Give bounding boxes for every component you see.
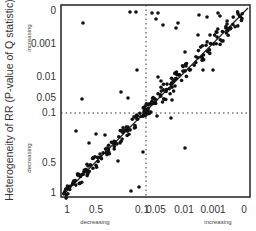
svg-text:0.05: 0.05 xyxy=(37,92,57,103)
y-decreasing-label: decreasing xyxy=(26,143,32,172)
x-increasing-label: increasing xyxy=(204,219,231,225)
svg-text:1: 1 xyxy=(50,187,56,198)
svg-text:0.5: 0.5 xyxy=(42,157,56,168)
scatter-chart: 0 0.001 0.01 0.05 0.1 0.5 1 1 0.5 0.1 0.… xyxy=(0,0,256,231)
svg-text:1: 1 xyxy=(64,204,70,215)
svg-text:0.01: 0.01 xyxy=(174,204,194,215)
svg-text:0: 0 xyxy=(50,5,56,16)
y-increasing-label: increasing xyxy=(26,24,32,51)
svg-text:0.5: 0.5 xyxy=(89,204,103,215)
y-axis-title: Heterogeneity of RR (P-value of Q statis… xyxy=(3,0,15,201)
svg-text:0.001: 0.001 xyxy=(200,204,225,215)
data-points xyxy=(62,10,244,200)
svg-text:0.05: 0.05 xyxy=(146,204,166,215)
svg-text:0: 0 xyxy=(241,204,247,215)
svg-text:0.01: 0.01 xyxy=(37,71,57,82)
x-axis: 1 0.5 0.1 0.05 0.01 0.001 0 xyxy=(64,204,247,215)
x-decreasing-label: decreasing xyxy=(80,219,109,225)
svg-text:0.001: 0.001 xyxy=(31,38,56,49)
svg-text:0.1: 0.1 xyxy=(42,107,56,118)
y-axis: 0 0.001 0.01 0.05 0.1 0.5 1 xyxy=(31,5,56,198)
